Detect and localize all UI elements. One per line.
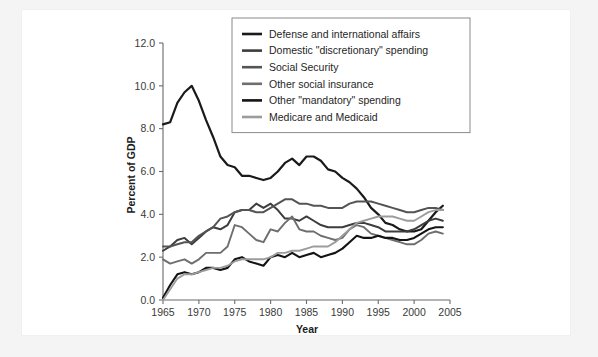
y-tick-label: 0.0	[140, 294, 155, 306]
line-chart: 0.02.04.06.08.010.012.019651970197519801…	[0, 0, 598, 357]
legend-label: Defense and international affairs	[269, 28, 420, 40]
y-tick-label: 4.0	[140, 208, 155, 220]
legend-label: Other social insurance	[269, 78, 374, 90]
x-tick-label: 1980	[259, 306, 283, 318]
x-tick-label: 2000	[402, 306, 426, 318]
legend-label: Other "mandatory" spending	[269, 94, 401, 106]
y-tick-label: 10.0	[135, 80, 156, 92]
chart-figure: 0.02.04.06.08.010.012.019651970197519801…	[0, 0, 598, 357]
x-tick-label: 1990	[331, 306, 355, 318]
x-tick-label: 1995	[367, 306, 391, 318]
legend-label: Domestic "discretionary" spending	[269, 44, 428, 56]
y-tick-label: 8.0	[140, 122, 155, 134]
x-tick-label: 2005	[438, 306, 462, 318]
chart-legend: Defense and international affairsDomesti…	[232, 18, 470, 133]
y-tick-label: 12.0	[135, 37, 156, 49]
x-tick-label: 1965	[151, 306, 175, 318]
legend-label: Social Security	[269, 61, 339, 73]
y-axis-title: Percent of GDP	[125, 136, 137, 213]
legend-label: Medicare and Medicaid	[269, 111, 378, 123]
x-tick-label: 1970	[187, 306, 211, 318]
y-tick-label: 2.0	[140, 251, 155, 263]
x-tick-label: 1985	[295, 306, 319, 318]
y-tick-label: 6.0	[140, 165, 155, 177]
x-tick-label: 1975	[223, 306, 247, 318]
series-line	[163, 227, 443, 298]
x-axis-title: Year	[296, 323, 318, 335]
